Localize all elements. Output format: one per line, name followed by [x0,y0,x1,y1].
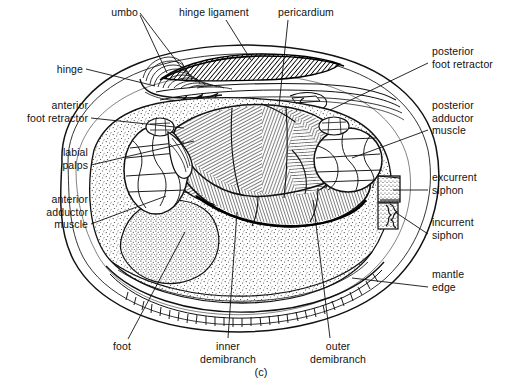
label-excurrent-siphon: excurrentsiphon [432,171,514,196]
leader-incurrent-siphon [395,212,428,234]
label-line: foot [101,340,143,353]
label-line: umbo [93,6,138,19]
label-line: anterior [18,193,88,206]
label-line: incurrent [432,216,514,229]
label-line: muscle [18,218,88,231]
label-line: mantle [432,268,514,281]
label-line: edge [432,281,514,294]
label-line: foot retractor [10,112,88,125]
label-pericardium: pericardium [278,6,343,19]
label-inner-demibranch: innerdemibranch [186,340,270,365]
label-line: outer [296,340,380,353]
label-hinge-ligament: hinge ligament [179,6,259,19]
label-line: demibranch [296,353,380,366]
label-anterior-foot-retractor: anteriorfoot retractor [10,99,88,124]
label-labial-palps: labialpalps [30,146,88,171]
label-line: labial [30,146,88,159]
label-line: siphon [432,229,514,242]
label-line: adductor [18,206,88,219]
label-anterior-adductor-muscle: anterioradductormuscle [18,193,88,231]
label-line: demibranch [186,353,270,366]
label-line: posterior [432,45,514,58]
label-incurrent-siphon: incurrentsiphon [432,216,514,241]
label-line: excurrent [432,171,514,184]
label-line: hinge ligament [179,6,259,19]
label-hinge: hinge [38,63,83,76]
label-line: inner [186,340,270,353]
label-line: hinge [38,63,83,76]
label-line: posterior [432,99,514,112]
illustration-ink [61,45,439,332]
leader-umbo [140,15,167,73]
posterior-adductor-muscle-shape [314,128,382,192]
siphons [378,176,400,229]
label-foot: foot [101,340,143,353]
label-posterior-adductor-muscle: posterioradductormuscle [432,99,514,137]
figure-caption: (c) [0,366,522,378]
label-umbo: umbo [93,6,138,19]
label-line: foot retractor [432,58,514,71]
label-outer-demibranch: outerdemibranch [296,340,380,365]
label-line: anterior [10,99,88,112]
label-mantle-edge: mantleedge [432,268,514,293]
label-line: adductor [432,112,514,125]
label-line: pericardium [278,6,343,19]
label-line: siphon [432,184,514,197]
figure-canvas: umbohinge ligamentpericardiumhingeanteri… [0,0,522,390]
label-posterior-foot-retractor: posteriorfoot retractor [432,45,514,70]
posterior-foot-retractor-shape [319,117,349,135]
label-line: palps [30,159,88,172]
label-line: muscle [432,124,514,137]
